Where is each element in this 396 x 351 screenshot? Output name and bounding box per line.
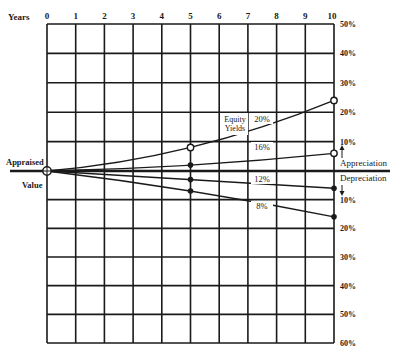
x-tick-label: 6 bbox=[217, 11, 222, 21]
appreciation-label: Appreciation bbox=[340, 158, 387, 168]
value-label: Value bbox=[22, 180, 43, 190]
marker-open-circle bbox=[331, 150, 337, 156]
x-tick-label: 8 bbox=[274, 11, 279, 21]
x-tick-label: 0 bbox=[45, 11, 50, 21]
equity-yield-chart: Years01234567891050%40%30%20%10%10%20%30… bbox=[0, 0, 396, 351]
marker-dot bbox=[188, 188, 194, 194]
marker-dot bbox=[331, 214, 337, 220]
appraised-label: Appraised bbox=[6, 157, 44, 167]
x-tick-label: 4 bbox=[160, 11, 165, 21]
y-tick-label-upper: 30% bbox=[340, 79, 356, 88]
x-tick-label: 7 bbox=[246, 11, 251, 21]
y-tick-label-upper: 50% bbox=[340, 20, 356, 29]
y-tick-label-upper: 20% bbox=[340, 108, 356, 117]
y-tick-label-lower: 30% bbox=[340, 253, 356, 262]
marker-dot bbox=[331, 185, 337, 191]
equity-yields-label-1: Equity bbox=[224, 115, 245, 124]
marker-dot bbox=[188, 162, 194, 168]
y-tick-label-lower: 60% bbox=[340, 339, 356, 348]
y-tick-label-lower: 50% bbox=[340, 310, 356, 319]
marker-open-circle bbox=[331, 97, 337, 103]
x-tick-label: 1 bbox=[73, 11, 78, 21]
x-tick-label: 3 bbox=[131, 11, 136, 21]
y-tick-label-lower: 20% bbox=[340, 224, 356, 233]
y-tick-label-lower: 10% bbox=[340, 196, 356, 205]
depreciation-label: Depreciation bbox=[340, 173, 387, 183]
marker-dot bbox=[188, 177, 194, 183]
series-label: 20% bbox=[254, 114, 270, 124]
series-label: 12% bbox=[254, 174, 270, 184]
y-tick-label-lower: 40% bbox=[340, 282, 356, 291]
x-tick-label: 2 bbox=[102, 11, 107, 21]
x-tick-label: 10 bbox=[328, 11, 338, 21]
x-tick-label: 9 bbox=[303, 11, 308, 21]
series-label: 8% bbox=[256, 201, 267, 211]
equity-yields-label-2: Yields bbox=[225, 124, 245, 133]
series-label: 16% bbox=[254, 142, 270, 152]
grid bbox=[47, 24, 334, 343]
x-axis-title: Years bbox=[8, 12, 30, 22]
marker-open-circle bbox=[187, 144, 193, 150]
y-tick-label-upper: 10% bbox=[340, 138, 356, 147]
x-tick-label: 5 bbox=[188, 11, 193, 21]
y-tick-label-upper: 40% bbox=[340, 49, 356, 58]
